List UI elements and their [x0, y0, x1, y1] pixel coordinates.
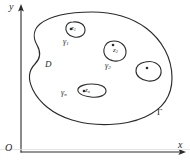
x-axis-label: x [178, 140, 182, 150]
y-axis-label: y [9, 2, 13, 12]
inner-contour-unlabeled [136, 61, 161, 81]
axes-group [18, 4, 186, 155]
domain-diagram-canvas [0, 0, 190, 166]
origin-label: O [5, 143, 12, 153]
domain-label-D: D [45, 60, 52, 69]
point-unlabeled-dot [146, 67, 149, 70]
point-label-zn: zn [85, 87, 90, 94]
point-label-z1: z1 [71, 25, 76, 32]
contour-label-gamman: γn [61, 89, 67, 97]
inner-contour-3-path [136, 61, 161, 81]
inner-contour-n-path [78, 84, 106, 97]
contour-label-gamma1: γ1 [63, 38, 69, 46]
contour-label-gamma2: γ2 [105, 62, 111, 70]
inner-contour-gamma-n [78, 84, 106, 97]
point-label-z2: z2 [113, 47, 118, 54]
outer-contour-label-gamma-capital: Γ [157, 108, 162, 117]
